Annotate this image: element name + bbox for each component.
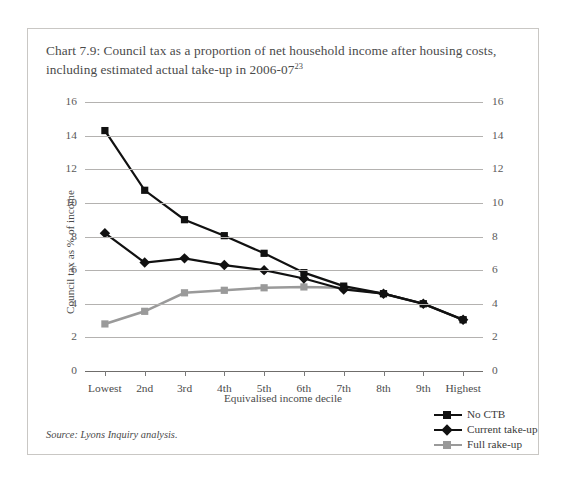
data-point-marker [300,283,307,290]
data-point-marker [181,289,188,296]
x-axis-tickmark [344,371,345,376]
data-point-marker [261,250,268,257]
legend-marker-square [443,441,451,449]
x-axis-tickmark [384,371,385,376]
chart-legend: No CTBCurrent take-upFull rake-up [434,407,538,452]
x-axis-tickmark [185,371,186,376]
data-point-marker [261,284,268,291]
series-no-ctb [101,127,466,323]
y-axis-right-tick-label: 2 [492,331,522,342]
data-point-marker [219,260,229,270]
series-line [105,287,463,324]
data-point-marker [378,288,388,298]
gridline-6 [85,270,483,271]
gridline-4 [85,304,483,305]
y-axis-left-tick-label: 2 [47,331,77,342]
data-point-marker [101,127,108,134]
y-axis-left-tick-label: 14 [47,130,77,141]
y-axis-right-tick-label: 10 [492,197,522,208]
series-line [105,131,463,320]
data-point-marker [141,308,148,315]
y-axis-left-tick-label: 8 [47,231,77,242]
chart-figure-panel: Chart 7.9: Council tax as a proportion o… [27,28,539,455]
gridline-16 [85,102,483,103]
legend-swatch [434,409,462,421]
y-axis-left-tick-label: 12 [47,163,77,174]
y-axis-right-tick-label: 4 [492,298,522,309]
y-axis-right-tick-label: 14 [492,130,522,141]
y-axis-left-tick-label: 0 [47,365,77,376]
x-axis-tickmark [304,371,305,376]
legend-label: Current take-up [467,424,538,435]
chart-title: Chart 7.9: Council tax as a proportion o… [46,41,516,79]
source-note: Source: Lyons Inquiry analysis. [46,429,177,440]
legend-item: Current take-up [434,422,538,437]
y-axis-title: Council tax as % of income [64,190,76,314]
y-axis-left-tick-label: 6 [47,264,77,275]
gridline-10 [85,203,483,204]
y-axis-left-tick-label: 16 [47,96,77,107]
y-axis-right-tick-label: 12 [492,163,522,174]
x-axis-tickmark [264,371,265,376]
data-point-marker [221,287,228,294]
chart-title-text: Chart 7.9: Council tax as a proportion o… [46,43,496,77]
legend-swatch [434,424,462,436]
data-point-marker [181,216,188,223]
x-axis-tickmark [224,371,225,376]
chart-title-footnote-marker: 23 [295,62,304,71]
y-axis-right-tick-label: 16 [492,96,522,107]
data-point-marker [179,253,189,263]
y-axis-right-tick-label: 0 [492,365,522,376]
legend-item: No CTB [434,407,538,422]
plot-area: 0246810121416 0246810121416 Lowest2nd3rd… [85,102,483,371]
y-axis-right-tick-label: 6 [492,264,522,275]
legend-label: Full rake-up [467,439,522,450]
legend-marker-square [443,411,451,419]
x-axis-tickmark [105,371,106,376]
x-axis-tickmark [463,371,464,376]
gridline-12 [85,169,483,170]
x-axis-tickmark [423,371,424,376]
y-axis-left-tick-label: 4 [47,298,77,309]
legend-marker-diamond [441,424,452,435]
series-full-rake-up [101,283,466,327]
data-point-marker [458,314,468,324]
legend-swatch [434,439,462,451]
x-axis-title: Equivalised income decile [28,392,538,404]
gridline-8 [85,237,483,238]
gridline-14 [85,136,483,137]
legend-label: No CTB [467,409,505,420]
gridline-2 [85,337,483,338]
legend-item: Full rake-up [434,437,538,452]
x-axis-tickmark [145,371,146,376]
y-axis-left-tick-label: 10 [47,197,77,208]
data-point-marker [101,320,108,327]
data-point-marker [141,187,148,194]
series-current-take-up [100,228,469,325]
y-axis-right-tick-label: 8 [492,231,522,242]
series-line [105,233,463,320]
